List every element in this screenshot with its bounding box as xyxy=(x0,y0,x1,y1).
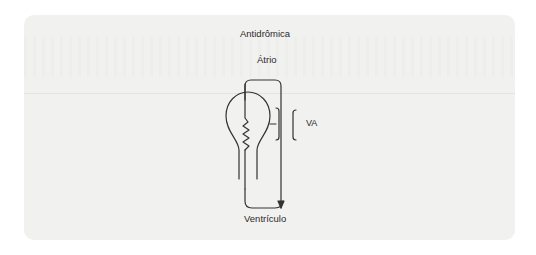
diagram-title: Antidrômica xyxy=(240,28,290,39)
va-label: VA xyxy=(306,118,317,128)
circuit-loop xyxy=(245,80,281,208)
zigzag-icon xyxy=(243,84,249,150)
ventricle-label: Ventrículo xyxy=(244,213,286,224)
va-bracket xyxy=(293,110,296,140)
pathway-bracket xyxy=(270,108,279,140)
atrium-label: Átrio xyxy=(257,54,277,65)
circuit-loop-bottom xyxy=(245,189,283,208)
av-node-outline xyxy=(226,92,270,179)
